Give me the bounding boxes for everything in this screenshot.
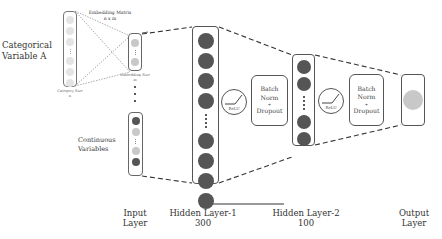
continuous-node [132,128,140,136]
ellipsis-dots [135,139,136,144]
hidden1-line1: Hidden Layer-1 [167,208,239,218]
output-layer-label: Output Layer [392,208,436,228]
input-layer-line1: Input [115,208,155,218]
relu-activation-1: ReLU [221,89,247,115]
category-node [66,79,74,87]
ellipsis-dots [70,49,71,54]
relu-curve-icon [318,88,344,114]
relu-label-1: ReLU [222,106,246,111]
relu-label-2: ReLU [319,105,343,110]
hidden-layer-1-column [192,26,219,184]
embedding-size-label: Embedding Size [118,73,152,78]
embedding-node [131,39,139,47]
output-layer-line1: Output [392,208,436,218]
bn2-line4: Dropout [354,107,380,116]
input-layer-label: Input Layer [115,208,155,228]
category-node [66,27,74,35]
hidden2-node [297,60,311,74]
category-size-symbol: n [54,94,86,99]
category-node [66,57,74,65]
ellipsis-dots [303,96,305,110]
continuous-variables-column [128,112,143,176]
embedding-size-symbol: m [118,78,152,83]
ellipsis-dots [135,50,136,55]
categorical-variable-label: Categorical Variable A [2,40,64,62]
category-node [66,68,74,76]
ellipsis-dots [205,114,207,128]
batchnorm-dropout-block-2: Batch Norm + Dropout [349,74,384,126]
relu-curve-icon [221,89,247,115]
category-size-label: Category Size [54,89,86,94]
output-node [403,90,423,110]
hidden2-node [297,115,311,129]
hidden1-units: 300 [167,218,239,228]
batchnorm-dropout-block-1: Batch Norm + Dropout [251,75,288,126]
hidden2-line1: Hidden Layer-2 [270,208,342,218]
category-node [66,38,74,46]
input-layer-line2: Layer [115,218,155,228]
continuous-variables-label: Continuous Variables [78,136,123,154]
embedding-matrix-dims: n x m [80,16,140,22]
category-node [66,16,74,24]
hidden2-units: 100 [270,218,342,228]
bn1-line1: Batch [260,85,278,94]
hidden1-node [198,53,214,69]
output-layer-line2: Layer [392,218,436,228]
embedding-node [131,58,139,66]
continuous-node [132,158,140,166]
hidden1-node [198,193,214,209]
bn2-line1: Batch [357,85,375,94]
hidden1-node [198,33,214,49]
hidden1-node [198,93,214,109]
embedding-matrix-title: Embedding Matrix n x m [80,10,140,22]
hidden-layer-1-label: Hidden Layer-1 300 [167,208,239,228]
more-variables-dots [134,86,136,102]
continuous-line1: Continuous [78,136,123,145]
continuous-node [132,117,140,125]
hidden1-node [198,133,214,149]
hidden1-node [198,173,214,189]
hidden2-node [297,132,311,146]
categorical-line1: Categorical [2,40,64,51]
hidden2-node [297,77,311,91]
hidden1-node [198,153,214,169]
hidden-layer-2-label: Hidden Layer-2 100 [270,208,342,228]
category-size-caption: Category Size n [54,89,86,98]
output-layer-column [401,74,425,126]
bn1-line2: Norm [261,94,279,103]
category-one-hot-column [63,11,77,87]
bn1-line4: Dropout [257,107,283,116]
continuous-line2: Variables [78,145,123,154]
relu-activation-2: ReLU [318,88,344,114]
categorical-line2: Variable A [2,51,64,62]
bn2-line2: Norm [358,93,376,102]
embedding-size-caption: Embedding Size m [118,73,152,82]
continuous-node [132,147,140,155]
hidden-layer-2-column [292,54,315,146]
embedding-vector-column [128,33,142,71]
hidden1-node [198,73,214,89]
